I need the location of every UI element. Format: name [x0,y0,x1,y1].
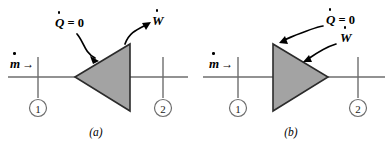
panel-b-caption: (b) [271,126,311,138]
mdot-symbol-b: m [209,56,219,71]
qdot-symbol-a: Q [55,15,64,30]
mdot-overdot-b [212,52,215,55]
inlet-station-number-b: 1 [230,103,246,115]
qdot-overdot-a [58,11,61,14]
mass-flow-label-a: m→ [10,57,34,70]
heat-leader-line [77,34,95,58]
inlet-station-number-a: 1 [30,103,46,115]
thermodynamics-figure: m→ Q = 0 W 1 2 (a) [0,0,391,152]
heat-value-a: = 0 [68,16,85,30]
wdot-symbol-a: W [152,13,164,28]
work-arrowhead [303,55,312,62]
heat-leader-line [284,26,323,40]
work-leader-line [308,44,336,59]
qdot-overdot-b [329,8,332,11]
heat-value-b: = 0 [339,13,356,27]
wdot-symbol-b: W [340,30,352,45]
heat-label-a: Q = 0 [55,16,84,30]
turbine-symbol [75,44,130,111]
mass-flow-arrow-b: → [219,57,233,71]
qdot-symbol-b: Q [326,12,335,27]
work-label-a: W [152,14,164,27]
heat-arrowhead [279,36,288,44]
panel-a: m→ Q = 0 W 1 2 (a) [0,0,196,152]
panel-b: m→ Q = 0 W 1 2 (b) [195,0,391,152]
outlet-station-number-b: 2 [350,103,366,115]
panel-a-caption: (a) [76,126,116,138]
wdot-overdot-b [344,26,347,29]
heat-label-b: Q = 0 [326,13,355,27]
work-label-b: W [340,31,352,44]
wdot-overdot-a [156,9,159,12]
mdot-symbol-a: m [10,56,20,71]
outlet-station-number-a: 2 [155,103,171,115]
work-leader-line [125,25,146,44]
mass-flow-label-b: m→ [209,57,233,70]
mass-flow-arrow-a: → [20,57,34,71]
compressor-symbol [273,44,328,111]
mdot-overdot-a [13,52,16,55]
